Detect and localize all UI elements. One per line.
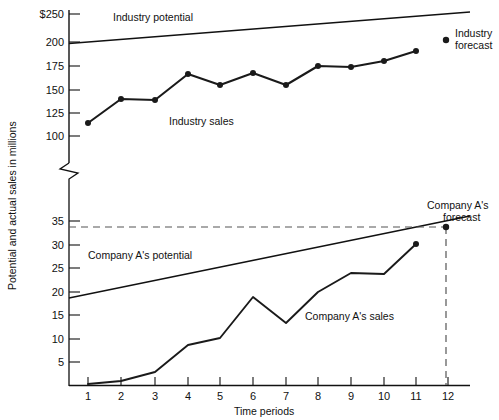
x-tick-label-8: 8 (315, 390, 321, 402)
x-tick-label-2: 2 (118, 390, 124, 402)
y-tick-label-200: 200 (46, 36, 64, 48)
y-tick-label-5: 5 (58, 356, 64, 368)
x-tick-label-1: 1 (85, 390, 91, 402)
x-tick-label-4: 4 (185, 390, 191, 402)
x-tick-label-3: 3 (152, 390, 158, 402)
industry-forecast-point[interactable] (443, 37, 449, 43)
y-axis-title: Potential and actual sales in millions (6, 121, 18, 290)
company-forecast-label-line2: forecast (443, 211, 480, 223)
company-sales-label: Company A's sales (305, 310, 394, 322)
y-tick-label-30: 30 (52, 239, 64, 251)
x-tick-label-10: 10 (378, 390, 390, 402)
sales-potential-chart: $250 200 175 150 125 100 35 30 25 20 15 … (0, 0, 499, 420)
industry-potential-label: Industry potential (113, 11, 193, 23)
x-tick-label-12: 12 (442, 390, 454, 402)
y-tick-label-150: 150 (46, 84, 64, 96)
y-tick-label-20: 20 (52, 286, 64, 298)
company-forecast-label-line1: Company A's (427, 199, 489, 211)
company-potential-label: Company A's potential (88, 249, 192, 261)
y-tick-label-15: 15 (52, 309, 64, 321)
chart-container: $250 200 175 150 125 100 35 30 25 20 15 … (0, 0, 499, 420)
industry-forecast-label-line2: forecast (455, 39, 492, 51)
y-tick-label-175: 175 (46, 60, 64, 72)
industry-sales-line (88, 51, 416, 123)
y-tick-label-25: 25 (52, 262, 64, 274)
y-ticks-lower: 35 30 25 20 15 10 5 (52, 215, 80, 368)
company-forecast-point[interactable] (443, 224, 449, 230)
y-tick-label-100: 100 (46, 130, 64, 142)
x-ticks: 1 2 3 4 5 6 7 8 9 10 11 12 (85, 377, 454, 402)
x-tick-label-11: 11 (410, 390, 421, 402)
y-axis-break-icon (60, 163, 78, 386)
y-ticks-upper: $250 200 175 150 125 100 (40, 8, 80, 142)
y-tick-label-35: 35 (52, 215, 64, 227)
industry-sales-markers (85, 48, 419, 126)
industry-sales-label: Industry sales (169, 115, 234, 127)
company-sales-endpoint (413, 241, 419, 247)
y-tick-label-125: 125 (46, 107, 64, 119)
x-tick-label-6: 6 (250, 390, 256, 402)
industry-forecast-label-line1: Industry (455, 27, 493, 39)
x-tick-label-5: 5 (217, 390, 223, 402)
x-tick-label-9: 9 (348, 390, 354, 402)
y-tick-label-250: $250 (40, 8, 64, 20)
axis-group (60, 10, 470, 386)
x-tick-label-7: 7 (283, 390, 289, 402)
y-tick-label-10: 10 (52, 333, 64, 345)
x-axis-title: Time periods (234, 405, 294, 417)
